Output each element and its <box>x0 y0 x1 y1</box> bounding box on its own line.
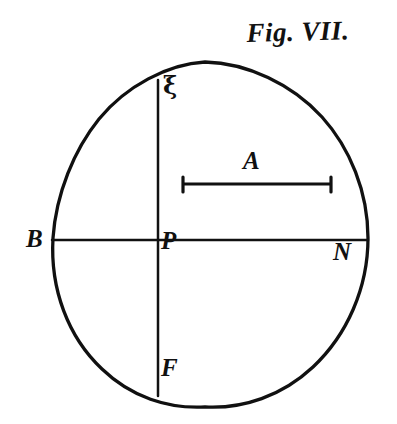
figure-canvas: Fig. VII. ξ A B P N F <box>0 0 397 424</box>
figure-title: Fig. VII. <box>246 17 349 47</box>
scale-bar-label-a: A <box>243 148 260 173</box>
point-label-f: F <box>161 355 178 380</box>
scale-bar <box>182 177 332 192</box>
point-label-b: B <box>26 226 43 251</box>
point-label-p: P <box>161 228 176 253</box>
ovoid-diagram-svg <box>0 0 397 424</box>
ovoid-outline <box>53 62 368 407</box>
ovoid-outline-ink-overlay <box>53 62 205 407</box>
point-label-xi: ξ <box>163 74 177 98</box>
point-label-n: N <box>333 239 351 264</box>
